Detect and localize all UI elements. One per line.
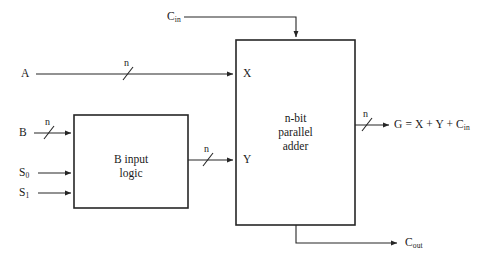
output-label-g-text: G = X + Y + C	[394, 118, 464, 130]
port-label-x: X	[243, 67, 251, 79]
block-label-n-bit-parallel-adder: n-bit parallel adder	[236, 111, 355, 153]
bus-width-label-b-logic-out: n	[204, 144, 209, 155]
signal-line-cin	[184, 17, 296, 37]
port-label-y: Y	[243, 153, 251, 165]
input-label-cin-subscript: in	[175, 15, 181, 24]
input-label-b-text: B	[19, 126, 27, 138]
input-label-cin: Cin	[167, 10, 181, 22]
input-label-a-text: A	[21, 67, 29, 79]
input-label-a: A	[21, 67, 29, 79]
output-label-g-subscript: in	[464, 123, 470, 132]
bus-width-label-b: n	[45, 117, 50, 128]
output-label-cout-subscript: out	[413, 241, 423, 250]
input-label-s1-text: S	[19, 186, 26, 198]
bus-width-label-a: n	[124, 58, 129, 69]
input-label-s0-subscript: 0	[26, 171, 30, 180]
input-label-cin-text: C	[167, 10, 175, 22]
block-label-adder-line-3: adder	[236, 139, 355, 153]
signal-line-cout	[296, 225, 397, 243]
input-label-b: B	[19, 126, 27, 138]
block-label-adder-line-2: parallel	[236, 125, 355, 139]
block-label-b-input-logic-line-2: logic	[74, 166, 188, 180]
block-label-b-input-logic: B input logic	[74, 152, 188, 180]
output-label-g: G = X + Y + Cin	[394, 118, 470, 130]
input-label-s0-text: S	[19, 166, 26, 178]
port-label-y-text: Y	[243, 153, 251, 165]
bus-width-label-g: n	[363, 109, 368, 120]
diagram-canvas: B input logic n-bit parallel adder Cin A…	[0, 0, 486, 267]
input-label-s1-subscript: 1	[26, 191, 30, 200]
input-label-s1: S1	[19, 186, 29, 198]
output-label-cout: Cout	[405, 236, 423, 248]
input-label-s0: S0	[19, 166, 29, 178]
block-label-adder-line-1: n-bit	[236, 111, 355, 125]
port-label-x-text: X	[243, 67, 251, 79]
block-label-b-input-logic-line-1: B input	[74, 152, 188, 166]
output-label-cout-text: C	[405, 236, 413, 248]
